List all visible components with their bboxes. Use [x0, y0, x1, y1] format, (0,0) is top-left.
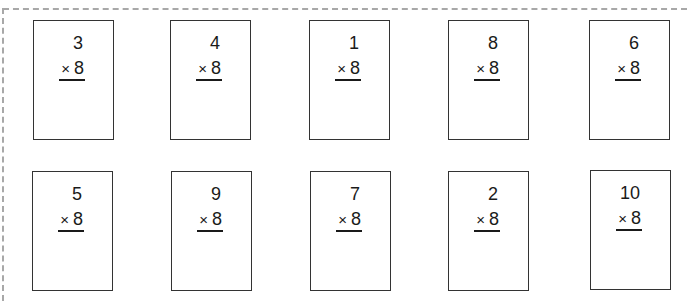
multiplier: 8 [630, 58, 640, 78]
multiplier: 8 [631, 208, 641, 228]
multiplicand: 3 [73, 34, 83, 52]
multiplier: 8 [211, 58, 221, 78]
multiplier-line: ×8 [476, 59, 499, 78]
answer-rule [615, 79, 641, 81]
problem-card: 10 ×8 [590, 170, 671, 290]
multiplier: 8 [73, 209, 83, 229]
multiplier-line: ×8 [476, 210, 499, 229]
answer-rule [336, 230, 362, 232]
multiplier-line: ×8 [617, 59, 640, 78]
cut-line-top [3, 8, 687, 10]
problem-card: 6 ×8 [589, 20, 670, 140]
multiplier: 8 [489, 209, 499, 229]
multiplier-line: ×8 [199, 210, 222, 229]
multiplicand: 5 [72, 185, 82, 203]
multiplier-line: ×8 [60, 210, 83, 229]
multiplicand: 8 [488, 34, 498, 52]
multiplier: 8 [351, 209, 361, 229]
multiplier-line: ×8 [338, 210, 361, 229]
multiply-sign-icon: × [476, 60, 485, 77]
answer-rule [58, 230, 84, 232]
multiply-sign-icon: × [618, 210, 627, 227]
multiply-sign-icon: × [61, 60, 70, 77]
answer-rule [335, 79, 361, 81]
answer-rule [616, 229, 642, 231]
problem-card: 2 ×8 [448, 171, 529, 291]
multiply-sign-icon: × [199, 211, 208, 228]
multiplier-line: ×8 [337, 59, 360, 78]
multiplicand: 7 [350, 185, 360, 203]
multiplicand: 1 [349, 34, 359, 52]
multiplicand: 6 [629, 34, 639, 52]
problem-card: 4 ×8 [170, 20, 251, 140]
problem-card: 3 ×8 [33, 20, 114, 140]
cut-line-left [2, 8, 4, 301]
multiply-sign-icon: × [476, 211, 485, 228]
multiplier: 8 [74, 58, 84, 78]
multiplier: 8 [489, 58, 499, 78]
problem-card: 7 ×8 [310, 171, 391, 291]
multiplicand: 4 [210, 34, 220, 52]
multiply-sign-icon: × [198, 60, 207, 77]
problem-card: 9 ×8 [171, 171, 252, 291]
multiplier: 8 [212, 209, 222, 229]
multiplicand: 2 [488, 185, 498, 203]
multiplier-line: ×8 [198, 59, 221, 78]
answer-rule [474, 230, 500, 232]
problem-card: 8 ×8 [448, 20, 529, 140]
multiply-sign-icon: × [60, 211, 69, 228]
answer-rule [197, 230, 223, 232]
problem-card: 5 ×8 [32, 171, 113, 291]
answer-rule [474, 79, 500, 81]
multiplier: 8 [350, 58, 360, 78]
answer-rule [59, 79, 85, 81]
multiply-sign-icon: × [338, 211, 347, 228]
multiply-sign-icon: × [337, 60, 346, 77]
multiplicand: 9 [211, 185, 221, 203]
multiplier-line: ×8 [61, 59, 84, 78]
multiplicand: 10 [620, 184, 640, 202]
problem-card: 1 ×8 [309, 20, 390, 140]
multiplier-line: ×8 [618, 209, 641, 228]
multiply-sign-icon: × [617, 60, 626, 77]
answer-rule [196, 79, 222, 81]
